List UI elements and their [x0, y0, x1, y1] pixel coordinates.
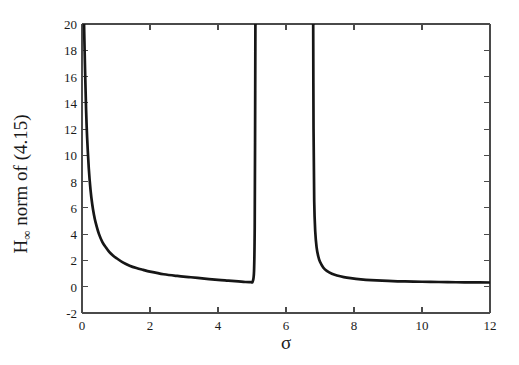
- x-axis-label: σ: [281, 333, 291, 352]
- x-tick-label: 6: [283, 319, 290, 332]
- x-tick-label: 0: [79, 319, 86, 332]
- figure-canvas: 024681012 -202468101214161820 σ H∞ norm …: [0, 0, 519, 365]
- curve-branch-1: [84, 24, 255, 282]
- y-tick-label: 14: [64, 96, 77, 109]
- y-tick-label: -2: [66, 307, 77, 320]
- y-tick-label: 20: [64, 18, 77, 31]
- y-axis-label-rest: norm of (4.15): [10, 114, 31, 230]
- x-tick-label: 10: [416, 319, 429, 332]
- plot-svg: [0, 0, 519, 365]
- curve-branch-2: [313, 24, 490, 283]
- y-axis-label-infinity: ∞: [19, 231, 34, 240]
- y-tick-label: 2: [71, 254, 78, 267]
- x-tick-label: 4: [215, 319, 222, 332]
- y-tick-label: 8: [71, 175, 78, 188]
- y-tick-label: 16: [64, 70, 77, 83]
- y-tick-label: 6: [71, 201, 78, 214]
- y-tick-label: 10: [64, 149, 77, 162]
- y-axis-label-main: H: [10, 240, 31, 254]
- data-curves: [84, 24, 490, 283]
- y-tick-label: 18: [64, 44, 77, 57]
- y-tick-label: 0: [71, 280, 78, 293]
- y-tick-label: 4: [71, 228, 78, 241]
- x-tick-label: 8: [351, 319, 358, 332]
- y-tick-label: 12: [64, 123, 77, 136]
- x-tick-label: 12: [484, 319, 497, 332]
- y-axis-label: H∞ norm of (4.15): [11, 114, 33, 253]
- x-tick-label: 2: [147, 319, 154, 332]
